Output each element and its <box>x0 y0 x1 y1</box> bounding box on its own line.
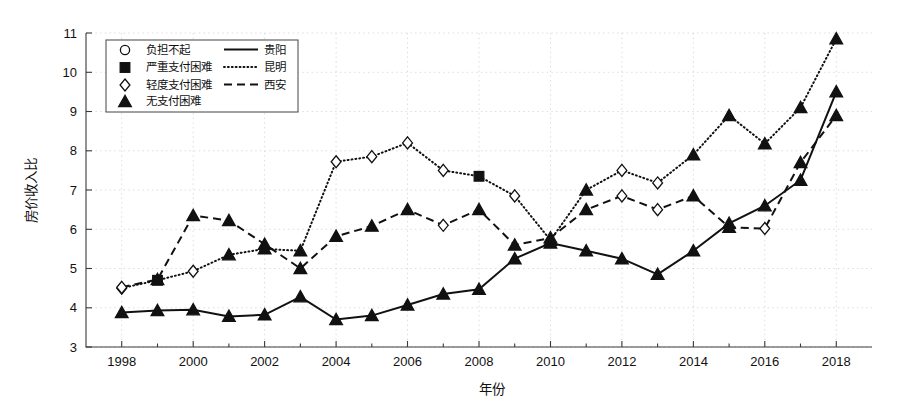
marker-triangle <box>473 203 486 214</box>
x-tick-label: 2010 <box>536 354 565 369</box>
marker-square <box>120 63 130 73</box>
marker-triangle <box>687 190 700 201</box>
x-axis-title: 年份 <box>479 381 506 397</box>
marker-triangle <box>723 109 736 120</box>
marker-triangle <box>580 203 593 214</box>
marker-triangle <box>508 239 521 250</box>
y-tick-label: 8 <box>70 143 77 158</box>
marker-triangle <box>830 86 843 97</box>
marker-triangle <box>580 184 593 195</box>
legend-marker-label: 负担不起 <box>146 43 191 57</box>
marker-diamond <box>438 164 448 176</box>
marker-diamond <box>331 156 341 168</box>
legend-line-label: 昆明 <box>264 60 286 74</box>
marker-diamond <box>653 204 663 216</box>
marker-diamond <box>367 151 377 163</box>
series-markers-2 <box>117 109 843 293</box>
marker-triangle <box>830 109 843 120</box>
x-tick-label: 2012 <box>607 354 636 369</box>
x-tick-label: 2004 <box>322 354 351 369</box>
legend-line-label: 贵阳 <box>264 43 286 57</box>
x-tick-label: 2002 <box>250 354 279 369</box>
marker-triangle <box>794 174 807 185</box>
x-tick-label: 2008 <box>465 354 494 369</box>
y-tick-label: 4 <box>70 300 77 315</box>
marker-triangle <box>223 214 236 225</box>
chart-legend: 负担不起严重支付困难轻度支付困难无支付困难贵阳昆明西安 <box>106 40 298 112</box>
marker-diamond <box>617 190 627 202</box>
marker-triangle <box>794 101 807 112</box>
y-tick-label: 6 <box>70 222 77 237</box>
y-tick-label: 11 <box>64 26 78 41</box>
marker-triangle <box>187 209 200 220</box>
legend-line-label: 西安 <box>264 78 286 92</box>
y-tick-label: 3 <box>70 340 77 355</box>
x-tick-label: 1998 <box>107 354 136 369</box>
marker-diamond <box>617 164 627 176</box>
legend-marker-label: 无支付困难 <box>146 94 201 108</box>
marker-triangle <box>258 238 271 249</box>
y-tick-labels: 34567891011 <box>63 26 77 355</box>
x-tick-labels: 1998200020022004200620082010201220142016… <box>107 354 851 369</box>
y-tick-label: 9 <box>70 104 77 119</box>
x-tick-label: 2000 <box>179 354 208 369</box>
marker-circle <box>120 45 129 54</box>
legend-marker-label: 轻度支付困难 <box>146 78 212 92</box>
marker-triangle <box>651 268 664 279</box>
y-tick-label: 7 <box>70 183 77 198</box>
marker-triangle <box>830 33 843 44</box>
y-axis-title: 房价收入比 <box>23 158 39 223</box>
legend-marker-label: 严重支付困难 <box>146 60 212 74</box>
x-tick-label: 2018 <box>822 354 851 369</box>
marker-diamond <box>188 265 198 277</box>
marker-triangle <box>330 230 343 241</box>
marker-diamond <box>510 190 520 202</box>
y-tick-label: 5 <box>70 261 77 276</box>
chart-figure: 34567891011 1998200020022004200620082010… <box>0 0 900 407</box>
marker-triangle <box>401 203 414 214</box>
marker-diamond <box>760 222 770 234</box>
y-tick-label: 10 <box>63 65 77 80</box>
marker-diamond <box>653 177 663 189</box>
marker-triangle <box>758 200 771 211</box>
x-tick-label: 2016 <box>750 354 779 369</box>
marker-triangle <box>508 252 521 263</box>
line-chart-canvas: 34567891011 1998200020022004200620082010… <box>0 0 900 407</box>
marker-triangle <box>294 291 307 302</box>
marker-diamond <box>403 137 413 149</box>
x-tick-label: 2014 <box>679 354 708 369</box>
marker-square <box>474 172 484 182</box>
x-tick-label: 2006 <box>393 354 422 369</box>
marker-triangle <box>365 220 378 231</box>
marker-diamond <box>117 281 127 293</box>
